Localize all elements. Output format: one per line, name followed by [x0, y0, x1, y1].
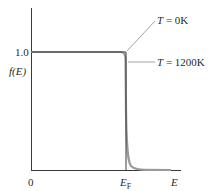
fermi-subscript: F — [127, 182, 131, 191]
y-tick-label-1: 1.0 — [15, 47, 29, 58]
x-axis-label: E — [171, 177, 178, 188]
anno-t1200-rest: = 1200K — [163, 56, 205, 68]
leader-t-0k — [127, 21, 155, 51]
curve-t-1200k — [31, 52, 171, 170]
x-tick-fermi-energy: EF — [120, 177, 131, 191]
x-origin-label: 0 — [28, 177, 34, 188]
y-axis-label: f(E) — [9, 66, 26, 77]
annotation-t-1200k: T = 1200K — [157, 57, 205, 68]
plot-area — [0, 0, 208, 191]
anno-t0-rest: = 0K — [163, 14, 188, 26]
fermi-dirac-chart: 1.0 f(E) 0 EF E T = 0K T = 1200K — [0, 0, 208, 191]
curve-t-0k — [31, 52, 126, 170]
fermi-main: E — [120, 176, 127, 188]
annotation-t-0k: T = 0K — [157, 15, 188, 26]
